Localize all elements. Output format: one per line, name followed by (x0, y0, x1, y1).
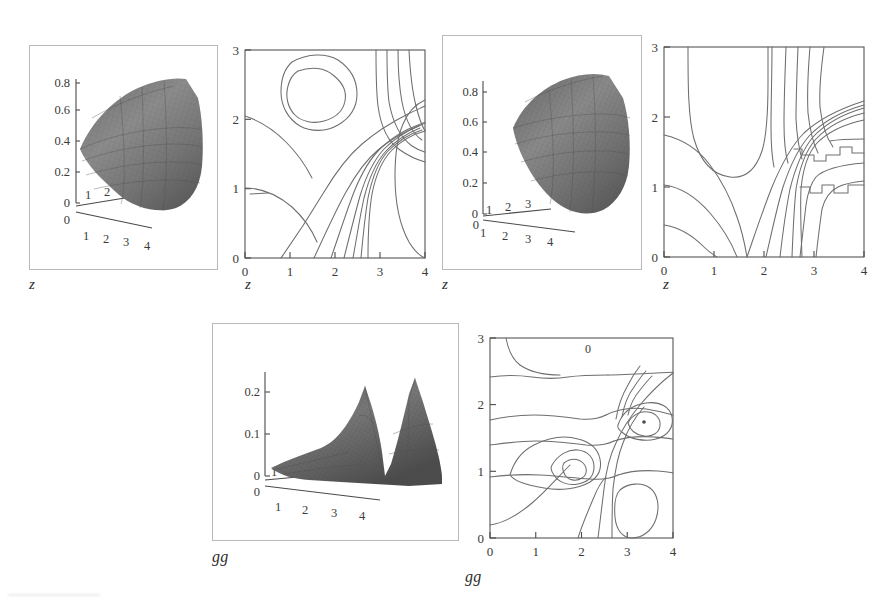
xtick-3: 3 (123, 235, 129, 249)
ytick2-2: 2 (505, 200, 511, 214)
surface-panel-bottom: 0 0.1 0.2 1 0 1 2 3 4 (212, 323, 459, 541)
contour1-xtick-1: 1 (287, 264, 294, 279)
xtick3-4: 4 (359, 509, 366, 523)
xtick-0: 0 (64, 213, 70, 227)
contour-curves-top-left (245, 50, 425, 258)
xtick-2: 2 (103, 232, 109, 246)
surface-mesh-top-left (80, 78, 203, 211)
contour-panel-top-left: 0 1 2 3 0 1 2 3 4 (226, 44, 436, 274)
contour-level-label-0: 0 (585, 342, 591, 356)
xtick2-4: 4 (547, 235, 554, 249)
contour1-ytick-3: 3 (233, 43, 240, 58)
ztick2-02: 0.2 (462, 176, 478, 190)
contour-curves-bottom (490, 338, 673, 538)
contour3-ytick-0: 0 (478, 531, 485, 546)
ztick-02: 0.2 (54, 165, 70, 179)
ztick3-02: 0.2 (244, 385, 260, 399)
contour3-xtick-3: 3 (624, 544, 631, 559)
xtick2-1: 1 (480, 226, 486, 240)
caption-surface-top-right: z (442, 276, 448, 293)
scan-artifact (8, 594, 100, 596)
contour3-ytick-2: 2 (478, 397, 485, 412)
xtick2-2: 2 (502, 229, 508, 243)
contour2-xtick-3: 3 (811, 263, 818, 278)
ztick3-01: 0.1 (244, 427, 260, 441)
surface-mesh-top-right (513, 74, 630, 214)
ytick-2: 2 (104, 185, 110, 199)
figure-root: 0 0.2 0.4 0.6 0.8 1 2 3 0 1 2 3 4 (0, 0, 896, 604)
contour2-ytick-2: 2 (652, 110, 659, 125)
contour1-xtick-4: 4 (422, 264, 429, 279)
xtick2-0: 0 (473, 218, 479, 232)
ztick2-08: 0.8 (462, 85, 478, 99)
ztick-0: 0 (64, 196, 70, 210)
ytick2-1: 1 (486, 203, 492, 217)
contour-panel-top-right: 0 1 2 3 0 1 2 3 4 (644, 35, 882, 275)
caption-contour-top-right: z (663, 276, 669, 293)
contour3-ytick-1: 1 (478, 464, 485, 479)
contour3-ytick-3: 3 (478, 331, 485, 346)
surface-panel-top-left: 0 0.2 0.4 0.6 0.8 1 2 3 0 1 2 3 4 (29, 45, 218, 270)
caption-contour-top-left: z (245, 276, 251, 293)
contour1-ytick-0: 0 (233, 251, 240, 266)
xtick-1: 1 (83, 229, 89, 243)
ztick2-06: 0.6 (462, 115, 478, 129)
contour2-ytick-1: 1 (652, 180, 659, 195)
contour-curves-top-right (664, 47, 864, 257)
extremum-marker (642, 420, 646, 424)
surface-plot-bottom: 0 0.1 0.2 1 0 1 2 3 4 (213, 324, 458, 540)
caption-contour-bottom: gg (465, 568, 481, 586)
contour1-xtick-3: 3 (377, 264, 384, 279)
xtick-4: 4 (144, 239, 151, 253)
surface-plot-top-left: 0 0.2 0.4 0.6 0.8 1 2 3 0 1 2 3 4 (30, 46, 217, 269)
contour-plot-bottom: 0 1 2 3 0 1 2 3 4 (460, 325, 684, 565)
contour1-ytick-1: 1 (233, 181, 240, 196)
xtick3-1: 1 (275, 500, 281, 514)
xtick3-3: 3 (331, 506, 337, 520)
surface-panel-top-right: 0 0.2 0.4 0.6 0.8 1 2 3 0 1 2 3 4 (442, 35, 642, 270)
contour2-ytick-0: 0 (652, 250, 659, 265)
contour3-xtick-0: 0 (487, 544, 494, 559)
ytick-1: 1 (85, 188, 91, 202)
contour2-xtick-1: 1 (711, 263, 718, 278)
caption-surface-bottom: gg (212, 548, 228, 566)
contour-panel-bottom: 0 1 2 3 0 1 2 3 4 (460, 325, 684, 565)
xtick3-2: 2 (302, 503, 308, 517)
surface-plot-top-right: 0 0.2 0.4 0.6 0.8 1 2 3 0 1 2 3 4 (443, 36, 641, 269)
contour1-ytick-2: 2 (233, 112, 240, 127)
ztick2-04: 0.4 (462, 145, 478, 159)
contour2-ytick-3: 3 (652, 40, 659, 55)
xtick3-0: 0 (254, 485, 260, 499)
contour3-xtick-2: 2 (578, 544, 585, 559)
ztick3-0: 0 (254, 469, 260, 483)
ztick-08: 0.8 (54, 76, 70, 90)
xtick2-3: 3 (525, 232, 531, 246)
ytick2-3: 3 (525, 197, 531, 211)
contour3-xtick-4: 4 (670, 544, 677, 559)
contour2-xtick-2: 2 (761, 263, 768, 278)
contour1-xtick-2: 2 (332, 264, 339, 279)
ztick-04: 0.4 (54, 134, 70, 148)
contour-plot-top-left: 0 1 2 3 0 1 2 3 4 (226, 44, 436, 274)
caption-surface-top-left: z (29, 276, 35, 293)
contour-plot-top-right: 0 1 2 3 0 1 2 3 4 (644, 35, 882, 275)
contour3-xtick-1: 1 (533, 544, 540, 559)
contour2-xtick-4: 4 (861, 263, 868, 278)
ztick-06: 0.6 (54, 103, 70, 117)
surface-mesh-bottom (271, 378, 442, 486)
